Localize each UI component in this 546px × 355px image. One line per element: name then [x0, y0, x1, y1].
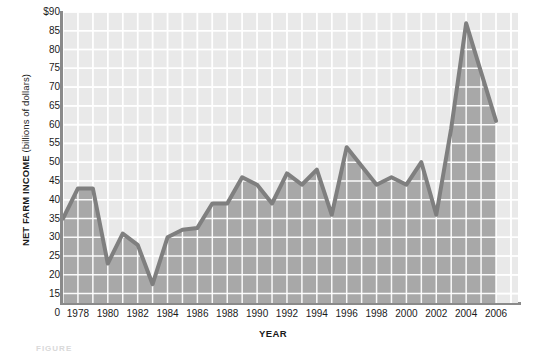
x-axis-title: YEAR: [0, 328, 546, 339]
x-axis-tick: 1984: [156, 308, 178, 319]
y-axis-tick: 50: [26, 157, 60, 167]
x-axis-tick: 1994: [306, 308, 328, 319]
y-axis-tick: 75: [26, 63, 60, 73]
x-axis-tick: 1990: [246, 308, 268, 319]
y-axis-tick: 60: [26, 120, 60, 130]
x-axis-tick: 1988: [216, 308, 238, 319]
y-axis-tick: 25: [26, 251, 60, 261]
x-axis-tick: 1998: [365, 308, 387, 319]
y-axis-tick: 70: [26, 82, 60, 92]
y-axis-tick: 40: [26, 195, 60, 205]
y-axis-tick-labels: $908580757065605550454035302520150: [22, 0, 60, 330]
x-axis-tick: 2000: [395, 308, 417, 319]
figure-caption: FIGURE: [36, 344, 72, 353]
y-axis-tick: 35: [26, 214, 60, 224]
chart-figure: NET FARM INCOME (billions of dollars) $9…: [0, 0, 546, 355]
x-axis-tick: 1982: [127, 308, 149, 319]
x-axis-tick: 1980: [97, 308, 119, 319]
y-axis-tick: 85: [26, 26, 60, 36]
y-axis-tick: 45: [26, 176, 60, 186]
x-axis-tick-labels: 1978198019821984198619881990199219941996…: [0, 308, 546, 322]
x-axis-tick: 2006: [485, 308, 507, 319]
plot-area: [63, 12, 518, 303]
y-axis-tick: 30: [26, 232, 60, 242]
y-axis-tick: $90: [26, 7, 60, 17]
x-axis-tick: 2002: [425, 308, 447, 319]
x-axis-tick: 2004: [455, 308, 477, 319]
area-fill: [63, 23, 496, 303]
x-axis-tick: 1986: [186, 308, 208, 319]
y-axis-tick: 15: [26, 289, 60, 299]
x-axis-tick: 1996: [336, 308, 358, 319]
y-axis-tick: 80: [26, 45, 60, 55]
x-axis-tick: 1978: [67, 308, 89, 319]
y-axis-tick: 55: [26, 138, 60, 148]
area-series-svg: [63, 12, 518, 303]
y-axis-tick: 20: [26, 270, 60, 280]
y-axis-tick: 65: [26, 101, 60, 111]
x-axis-tick: 1992: [276, 308, 298, 319]
